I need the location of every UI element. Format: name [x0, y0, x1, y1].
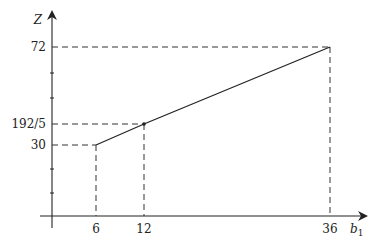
- y-tick-label-30: 30: [31, 138, 46, 152]
- y-axis-label: Z: [33, 13, 43, 27]
- x-tick-label-6: 6: [92, 222, 100, 236]
- y-tick-label-72: 72: [31, 40, 46, 54]
- series-line: [96, 47, 330, 145]
- x-tick-label-12: 12: [136, 222, 151, 236]
- guide-lines: [52, 47, 330, 216]
- y-tick-label-192-5: 192/5: [11, 117, 46, 131]
- x-axis-label: b1: [350, 222, 363, 238]
- chart: Z 72 192/5 30 6 12 36 b1: [0, 0, 382, 245]
- x-tick-label-36: 36: [322, 222, 337, 236]
- data-point-marker: [142, 122, 146, 126]
